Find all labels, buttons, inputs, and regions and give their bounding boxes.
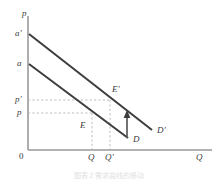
figure-caption: 图表 2 需求曲线的移动 [0,170,218,180]
curve-label-d: D [133,135,140,144]
origin-label: 0 [19,152,24,161]
intercept-label-a-prime: a' [15,29,22,38]
demand-shift-figure: p Q 0 a' a p' p Q Q' E E' D D' 图表 2 需求曲线… [0,0,218,183]
equilibrium-label-e-prime: E' [112,85,120,94]
price-label-p-prime: p' [15,95,22,104]
intercept-label-a: a [17,59,22,68]
equilibrium-label-e: E [80,121,86,130]
shift-arrow-icon [124,110,131,138]
demand-curve-initial [29,64,128,138]
quantity-label-q: Q [88,153,95,162]
x-axis-label: Q [196,153,203,162]
quantity-label-q-prime: Q' [105,153,114,162]
y-axis-label: p [22,9,27,18]
demand-curve-new [29,34,152,130]
price-label-p: p [17,108,22,117]
curve-label-d-prime: D' [157,126,166,135]
